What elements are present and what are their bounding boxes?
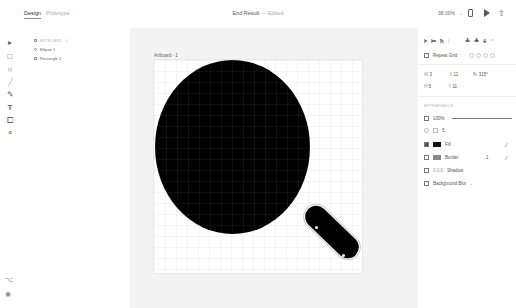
shadow-values[interactable]: 0,0,0 [433, 168, 443, 173]
repeat-grid-button[interactable]: Repeat Grid [433, 53, 457, 58]
chevron-down-icon: ⌄ [469, 181, 473, 186]
fill-swatch[interactable] [433, 142, 441, 147]
fill-label: Fill [445, 142, 451, 147]
transform-row-2: H 5 Y 11 [424, 84, 457, 89]
background-blur-row: Background Blur⌄ [424, 181, 473, 186]
transform-row-1: W 3 X 11 ↻ 315° [424, 72, 488, 77]
select-tool-icon[interactable]: ▸ [5, 38, 15, 48]
border-checkbox[interactable] [424, 155, 429, 160]
corner-radius-input[interactable]: 5 [442, 128, 445, 133]
play-icon[interactable] [484, 9, 490, 17]
top-bar: Design Prototype End Result — Edited 38.… [0, 0, 516, 28]
boolean-add-icon[interactable] [469, 53, 474, 58]
assets-icon[interactable]: ◉ [5, 290, 11, 298]
border-row: Border 1 ⁄ [424, 155, 514, 160]
align-center-icon[interactable]: ⊨ [431, 37, 436, 44]
text-tool-icon[interactable]: T [5, 103, 15, 113]
corner-each-icon[interactable] [433, 128, 438, 133]
fill-checkbox[interactable] [424, 142, 429, 147]
opacity-input[interactable]: 100% [433, 116, 445, 121]
boolean-subtract-icon[interactable] [476, 53, 481, 58]
plugins-icon[interactable]: ⌥ [5, 276, 13, 284]
border-swatch[interactable] [433, 155, 441, 160]
shadow-row: 0,0,0Shadow [424, 168, 463, 173]
shadow-label: Shadow [447, 168, 463, 173]
corner-all-icon[interactable] [424, 128, 429, 133]
layers-panel: ARTBOARD - 1 Ellipse 1 Rectangle 1 [22, 28, 130, 308]
corner-radius-row: 5 [424, 128, 445, 133]
w-input[interactable]: 3 [430, 72, 433, 77]
chevron-down-icon: ⌄ [459, 10, 463, 16]
share-icon[interactable]: ⇪ [498, 9, 506, 18]
align-top-icon[interactable]: ≛ [465, 37, 470, 44]
eyedropper-icon[interactable]: ⁄ [506, 155, 507, 161]
zoom-level-dropdown[interactable]: 38.00%⌄ [438, 10, 463, 16]
border-width-input[interactable]: 1 [486, 155, 489, 160]
rectangle-layer-icon [34, 57, 37, 60]
title-separator: — [259, 10, 268, 16]
shape-handle-start[interactable] [315, 226, 318, 229]
ellipse-shape[interactable] [155, 60, 310, 234]
distribute-v-icon[interactable]: ⁼ [491, 37, 494, 44]
y-input[interactable]: 11 [452, 84, 457, 89]
repeat-grid-icon [424, 53, 429, 58]
fill-row: Fill ⁄ [424, 142, 514, 147]
boolean-ops [469, 53, 497, 58]
opacity-slider[interactable] [452, 118, 512, 119]
layers-header[interactable]: ARTBOARD - 1 [34, 38, 68, 43]
shadow-checkbox[interactable] [424, 168, 429, 173]
boolean-exclude-icon[interactable] [490, 53, 495, 58]
layer-item-ellipse[interactable]: Ellipse 1 [34, 47, 55, 52]
background-blur-dropdown[interactable]: Background Blur [433, 181, 466, 186]
distribute-icon[interactable]: ⁞ [448, 38, 450, 44]
line-tool-icon[interactable]: ╱ [5, 78, 15, 88]
rotation-input[interactable]: 315° [479, 72, 488, 77]
align-middle-icon[interactable]: ≜ [474, 37, 479, 44]
artboard-layer-icon [34, 39, 37, 42]
border-label: Border [445, 155, 459, 160]
shape-handle-end[interactable] [342, 254, 345, 257]
document-status: Edited [268, 10, 284, 16]
pen-tool-icon[interactable]: ✎ [5, 90, 15, 100]
opacity-row: 100% [424, 116, 514, 121]
divider [418, 64, 516, 65]
zoom-level-value: 38.00% [438, 10, 455, 16]
artboard-label[interactable]: Artboard - 1 [154, 53, 178, 58]
divider [418, 96, 516, 97]
h-input[interactable]: 5 [429, 84, 432, 89]
align-right-icon[interactable]: ħ [440, 38, 444, 44]
ellipse-layer-icon [34, 48, 37, 51]
background-blur-checkbox[interactable] [424, 181, 429, 186]
properties-panel: ⊧⊨ħ⁞ ≛≜⩮⁼ Repeat Grid W 3 X 11 ↻ 315° H … [418, 28, 516, 308]
opacity-icon [424, 116, 429, 121]
tool-bar: ▸ □ ○ ╱ ✎ T ⧠ ⌕ ⌥ ◉ [0, 28, 22, 308]
document-name: End Result [232, 10, 259, 16]
layer-item-rectangle[interactable]: Rectangle 1 [34, 56, 61, 61]
eyedropper-icon[interactable]: ⁄ [506, 142, 507, 148]
boolean-intersect-icon[interactable] [483, 53, 488, 58]
repeat-grid-row: Repeat Grid [424, 53, 497, 58]
device-preview-icon[interactable] [468, 9, 473, 17]
appearance-header: APPEARANCE [424, 103, 453, 108]
align-toolbar: ⊧⊨ħ⁞ ≛≜⩮⁼ [424, 37, 498, 45]
artboard-tool-icon[interactable]: ⧠ [5, 116, 15, 126]
align-left-icon[interactable]: ⊧ [424, 37, 427, 44]
rectangle-tool-icon[interactable]: □ [5, 52, 15, 62]
ellipse-tool-icon[interactable]: ○ [5, 65, 15, 75]
zoom-tool-icon[interactable]: ⌕ [5, 128, 15, 138]
align-bottom-icon[interactable]: ⩮ [483, 38, 487, 45]
x-input[interactable]: 11 [454, 72, 459, 77]
